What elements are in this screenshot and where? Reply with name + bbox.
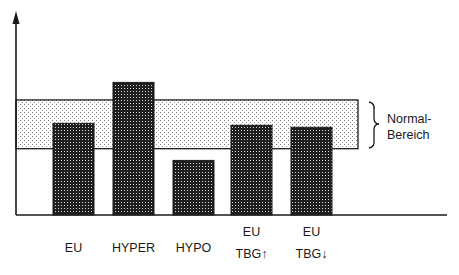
normal-range-label-line-1: Normal- bbox=[387, 112, 431, 126]
normal-range-label-line-2: Bereich bbox=[387, 128, 429, 142]
category-label-2-0: HYPO bbox=[176, 241, 212, 255]
bar-4 bbox=[291, 127, 332, 215]
brace-icon bbox=[369, 102, 379, 148]
category-label-0-0: EU bbox=[65, 241, 82, 255]
chart: EUHYPERHYPOEUTBG↑EUTBG↓ Normal- Bereich bbox=[0, 0, 459, 275]
category-label-3-1: TBG↑ bbox=[236, 247, 268, 261]
category-label-4-1: TBG↓ bbox=[296, 247, 328, 261]
y-axis-arrow-icon bbox=[13, 11, 20, 24]
bar-0 bbox=[53, 123, 94, 215]
bar-3 bbox=[231, 125, 272, 215]
bar-1 bbox=[113, 82, 154, 215]
bar-2 bbox=[173, 160, 214, 215]
category-labels: EUHYPERHYPOEUTBG↑EUTBG↓ bbox=[65, 225, 328, 261]
category-label-1-0: HYPER bbox=[112, 241, 155, 255]
normal-range-annotation: Normal- Bereich bbox=[369, 102, 431, 148]
category-label-4-0: EU bbox=[303, 225, 320, 239]
category-label-3-0: EU bbox=[243, 225, 260, 239]
